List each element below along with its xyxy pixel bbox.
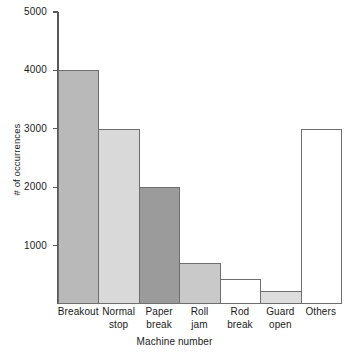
bar[interactable] bbox=[98, 129, 139, 304]
x-tick-label-line: Others bbox=[293, 306, 349, 319]
bar[interactable] bbox=[301, 129, 342, 304]
bar[interactable] bbox=[58, 70, 99, 304]
x-axis-tick-labels: BreakoutNormalstopPaperbreakRolljamRodbr… bbox=[58, 306, 341, 340]
bar[interactable] bbox=[179, 263, 220, 304]
bar-chart: # of occurrences 10002000300040005000 Br… bbox=[0, 0, 349, 358]
y-tick-label: 3000 bbox=[13, 124, 47, 134]
y-axis-tick-labels: 10002000300040005000 bbox=[13, 0, 47, 358]
x-tick-label-line: open bbox=[252, 319, 308, 332]
plot-area bbox=[58, 12, 341, 304]
bar[interactable] bbox=[220, 279, 261, 304]
bar[interactable] bbox=[139, 187, 180, 304]
y-tick-label: 2000 bbox=[13, 182, 47, 192]
y-tick-label: 5000 bbox=[13, 7, 47, 17]
y-tick-label: 4000 bbox=[13, 65, 47, 75]
y-tick-label: 1000 bbox=[13, 241, 47, 251]
x-tick-label: Others bbox=[293, 306, 349, 319]
x-axis-label: Machine number bbox=[0, 336, 349, 347]
bar[interactable] bbox=[260, 291, 301, 304]
